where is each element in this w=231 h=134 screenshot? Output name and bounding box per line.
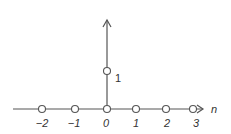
stem-plot: 1 n −2 −1 0 1 2 3 (0, 0, 231, 134)
tick-label: −2 (36, 117, 49, 129)
sample-marker-n-minus1 (72, 106, 79, 113)
sample-marker-n-minus2 (39, 106, 46, 113)
impulse-value-label: 1 (115, 72, 121, 84)
sample-marker-n1 (133, 106, 140, 113)
x-axis-label: n (211, 103, 217, 115)
sample-marker-n3 (190, 106, 197, 113)
tick-label: −1 (68, 117, 81, 129)
tick-label: 3 (193, 117, 200, 129)
tick-label: 1 (133, 117, 139, 129)
impulse-marker-n0 (104, 68, 111, 75)
sample-marker-n0-base (104, 106, 111, 113)
tick-label: 2 (163, 117, 170, 129)
sample-marker-n2 (163, 106, 170, 113)
tick-label: 0 (103, 117, 110, 129)
